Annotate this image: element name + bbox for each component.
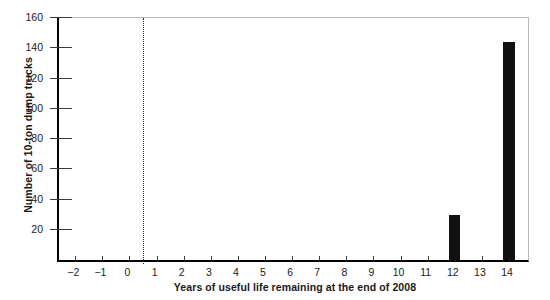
bar	[449, 215, 460, 260]
y-tick-label: 80	[3, 132, 43, 144]
x-tick-label: 12	[438, 266, 468, 278]
y-tick-label: 140	[3, 41, 43, 53]
x-tick	[319, 256, 320, 261]
x-tick-label: 10	[384, 266, 414, 278]
plot-inner: 020406080100120140160	[59, 18, 528, 260]
x-tick-label: 14	[492, 266, 522, 278]
x-tick	[482, 256, 483, 261]
x-tick	[292, 256, 293, 261]
y-tick: 140	[50, 47, 72, 48]
x-tick	[428, 256, 429, 261]
y-tick: 80	[50, 138, 72, 139]
x-tick-label: 9	[356, 266, 386, 278]
chart-figure: Number of 10-ton dump trucks 02040608010…	[0, 0, 550, 300]
y-tick-label: 100	[3, 102, 43, 114]
x-tick	[401, 256, 402, 261]
y-tick-label: 20	[3, 223, 43, 235]
x-tick	[129, 256, 130, 261]
reference-line-icon	[143, 18, 144, 264]
x-axis-title: Years of useful life remaining at the en…	[60, 281, 530, 293]
y-tick: 120	[50, 78, 72, 79]
x-tick-label: 2	[167, 266, 197, 278]
y-tick-label: 60	[3, 162, 43, 174]
plot-area: 020406080100120140160	[57, 17, 529, 262]
y-tick-label: 160	[3, 11, 43, 23]
y-tick: 100	[50, 108, 72, 109]
x-tick-label: −1	[85, 266, 115, 278]
x-tick	[238, 256, 239, 261]
y-tick: 40	[50, 199, 72, 200]
x-tick-label: −2	[58, 266, 88, 278]
x-tick-label: 3	[194, 266, 224, 278]
x-tick	[346, 256, 347, 261]
x-tick-label: 5	[248, 266, 278, 278]
x-tick-label: 4	[221, 266, 251, 278]
y-tick: 20	[50, 229, 72, 230]
x-tick	[211, 256, 212, 261]
x-tick-label: 6	[275, 266, 305, 278]
x-tick-label: 1	[140, 266, 170, 278]
x-tick-label: 11	[411, 266, 441, 278]
y-tick-label: 40	[3, 193, 43, 205]
x-tick-label: 13	[465, 266, 495, 278]
x-tick	[265, 256, 266, 261]
y-tick-label: 120	[3, 72, 43, 84]
x-tick-label: 0	[112, 266, 142, 278]
x-tick	[75, 256, 76, 261]
x-tick-label: 7	[302, 266, 332, 278]
x-tick	[373, 256, 374, 261]
y-tick: 160	[50, 17, 72, 18]
bar	[503, 42, 514, 260]
x-tick	[102, 256, 103, 261]
y-tick: 60	[50, 168, 72, 169]
x-tick	[184, 256, 185, 261]
x-tick-label: 8	[329, 266, 359, 278]
x-tick	[157, 256, 158, 261]
